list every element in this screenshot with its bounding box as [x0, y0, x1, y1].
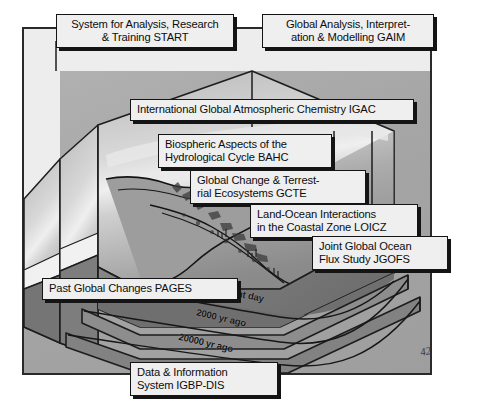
dis-label[interactable]: Data & Information System IGBP-DIS	[130, 362, 278, 396]
loicz-label[interactable]: Land-Ocean Interactions in the Coastal Z…	[250, 204, 418, 238]
start-label[interactable]: System for Analysis, Research & Training…	[56, 14, 234, 48]
pages-label[interactable]: Past Global Changes PAGES	[42, 278, 238, 300]
gaim-label[interactable]: Global Analysis, Interpret- ation & Mode…	[262, 14, 434, 48]
gcte-label[interactable]: Global Change & Terrest- rial Ecosystems…	[190, 170, 366, 204]
bahc-label[interactable]: Biospheric Aspects of the Hydrological C…	[158, 134, 332, 168]
jgofs-label[interactable]: Joint Global Ocean Flux Study JGOFS	[312, 236, 448, 270]
figure-canvas: System for Analysis, Research & Training…	[0, 0, 480, 411]
igac-label[interactable]: International Global Atmospheric Chemist…	[130, 99, 414, 121]
page-number-mark: 42	[419, 344, 432, 358]
